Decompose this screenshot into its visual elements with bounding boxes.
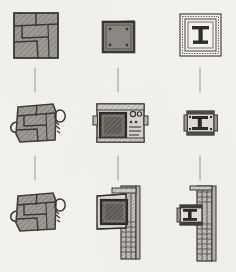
cell-r1c3[interactable] — [157, 0, 236, 88]
cell-r2c3[interactable] — [157, 88, 236, 176]
cell-r1c2[interactable] — [79, 0, 158, 88]
cell-r2c1[interactable] — [0, 88, 79, 176]
cell-r3c2[interactable] — [79, 176, 158, 272]
sketch-grid — [0, 0, 236, 272]
cell-r1c1[interactable] — [0, 0, 79, 88]
cell-r2c2[interactable] — [79, 88, 158, 176]
cell-r3c3[interactable] — [157, 176, 236, 272]
cell-r3c1[interactable] — [0, 176, 79, 272]
sketch-sheet — [0, 0, 236, 272]
